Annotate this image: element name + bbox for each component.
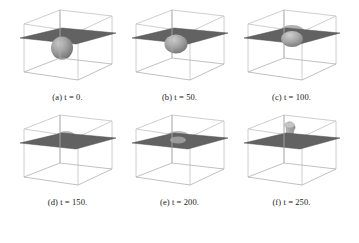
- figure-panel-grid: (a) t = 0.: [0, 0, 359, 243]
- cube-back-edges: [24, 115, 112, 185]
- panel-a: (a) t = 0.: [12, 6, 124, 102]
- panel-f-cube-render: [240, 111, 344, 195]
- panel-row-bottom: (d) t = 150.: [0, 102, 359, 207]
- panel-f: (f) t = 250.: [236, 111, 348, 207]
- panel-c-viewport: [240, 6, 344, 90]
- panel-c: (c) t = 100.: [236, 6, 348, 102]
- cube-front-edges: [24, 115, 112, 185]
- panel-b: (b) t = 50.: [124, 6, 236, 102]
- panel-a-caption: (a) t = 0.: [52, 92, 82, 102]
- panel-a-viewport: [16, 6, 120, 90]
- panel-b-caption: (b) t = 50.: [162, 92, 197, 102]
- panel-row-top: (a) t = 0.: [0, 0, 359, 102]
- panel-e-cube-render: [128, 111, 232, 195]
- panel-c-caption: (c) t = 100.: [272, 92, 311, 102]
- panel-e: (e) t = 200.: [124, 111, 236, 207]
- panel-d-cube-render: [16, 111, 120, 195]
- cube-back-edges: [136, 115, 224, 185]
- panel-a-cube-render: [16, 6, 120, 90]
- panel-f-caption: (f) t = 250.: [272, 197, 310, 207]
- panel-c-cube-render: [240, 6, 344, 90]
- panel-f-viewport: [240, 111, 344, 195]
- droplet-blob: [51, 37, 73, 60]
- panel-e-caption: (e) t = 200.: [160, 197, 199, 207]
- droplet-mushroom-cap: [284, 122, 294, 128]
- cube-front-edges: [136, 115, 224, 185]
- interface-plane: [244, 133, 340, 149]
- panel-d: (d) t = 150.: [12, 111, 124, 207]
- panel-d-viewport: [16, 111, 120, 195]
- panel-d-caption: (d) t = 150.: [48, 197, 88, 207]
- interface-plane: [20, 133, 116, 149]
- droplet-blob: [164, 35, 187, 54]
- panel-e-viewport: [128, 111, 232, 195]
- panel-b-viewport: [128, 6, 232, 90]
- panel-b-cube-render: [128, 6, 232, 90]
